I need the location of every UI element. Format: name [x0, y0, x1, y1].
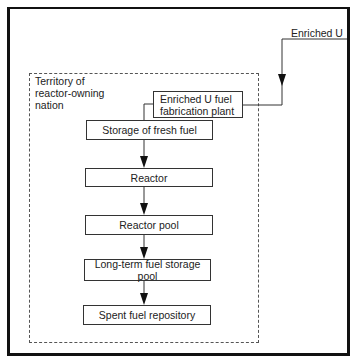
enriched-u-source-label: Enriched U	[291, 27, 343, 39]
node-reactor-pool: Reactor pool	[85, 215, 213, 235]
node-spent-fuel-repository: Spent fuel repository	[83, 305, 211, 325]
node-reactor: Reactor	[85, 168, 213, 187]
territory-label: Territory of reactor-owning nation	[35, 75, 104, 111]
node-longterm-storage-pool: Long-term fuel storage pool	[84, 259, 211, 281]
node-storage-fresh-fuel: Storage of fresh fuel	[86, 120, 213, 140]
node-fabrication-plant: Enriched U fuel fabrication plant	[153, 91, 243, 118]
